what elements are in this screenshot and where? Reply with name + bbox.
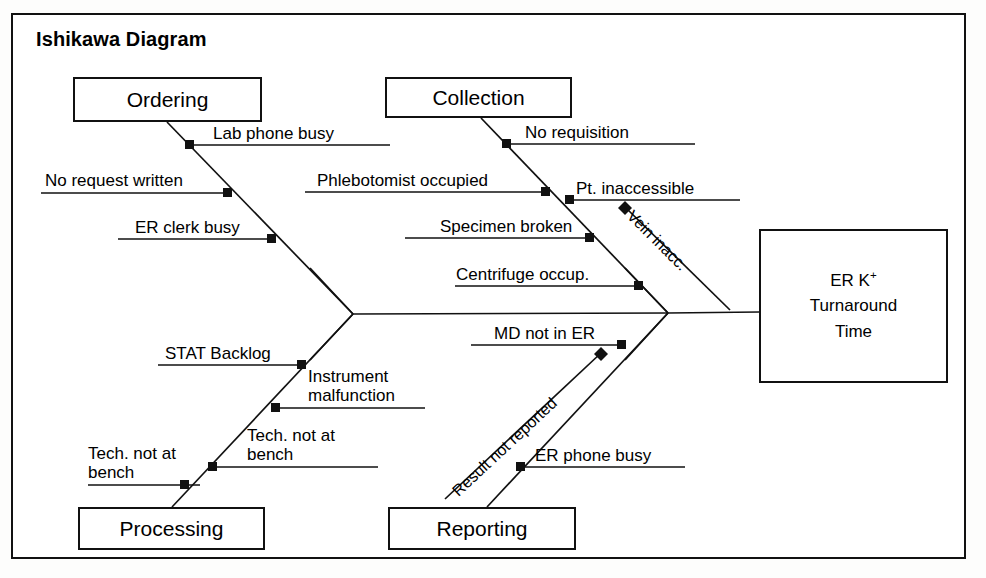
cause-label-no-requisition: No requisition	[525, 123, 629, 142]
category-box-ordering[interactable]: Ordering	[73, 77, 262, 122]
category-box-processing[interactable]: Processing	[78, 507, 265, 550]
cause-label-instrument-malfunction: Instrument malfunction	[308, 367, 426, 405]
effect-line-1: ER K+	[830, 268, 876, 294]
category-label-reporting: Reporting	[436, 517, 527, 541]
category-label-collection: Collection	[432, 86, 524, 110]
effect-line-3: Time	[835, 319, 872, 345]
cause-label-phlebotomist-occupied: Phlebotomist occupied	[317, 171, 488, 190]
page-title: Ishikawa Diagram	[36, 28, 207, 51]
cause-label-stat-backlog: STAT Backlog	[165, 344, 271, 363]
category-box-reporting[interactable]: Reporting	[388, 507, 576, 550]
cause-label-er-clerk-busy: ER clerk busy	[135, 218, 240, 237]
effect-line-2: Turnaround	[810, 293, 897, 319]
cause-label-unacceptable-specs: Tech. not at bench	[247, 426, 379, 464]
cause-label-specimen-broken: Specimen broken	[440, 217, 572, 236]
cause-label-centrifuge-occup: Centrifuge occup.	[456, 265, 589, 284]
cause-label-lab-phone-busy: Lab phone busy	[213, 124, 334, 143]
effect-line-1-text: ER K	[830, 271, 870, 290]
category-label-processing: Processing	[120, 517, 224, 541]
cause-label-tech-not-at-bench: Tech. not at bench	[88, 444, 180, 482]
cause-label-no-request-written: No request written	[45, 171, 183, 190]
category-label-ordering: Ordering	[127, 88, 209, 112]
cause-label-er-phone-busy: ER phone busy	[535, 446, 651, 465]
effect-box[interactable]: ER K+ Turnaround Time	[759, 229, 948, 383]
cause-label-pt-inaccessible: Pt. inaccessible	[576, 179, 694, 198]
effect-superscript-plus: +	[870, 269, 877, 281]
cause-label-md-not-in-er: MD not in ER	[494, 324, 595, 343]
category-box-collection[interactable]: Collection	[385, 77, 572, 118]
ishikawa-diagram-canvas: Ishikawa Diagram	[0, 0, 986, 578]
